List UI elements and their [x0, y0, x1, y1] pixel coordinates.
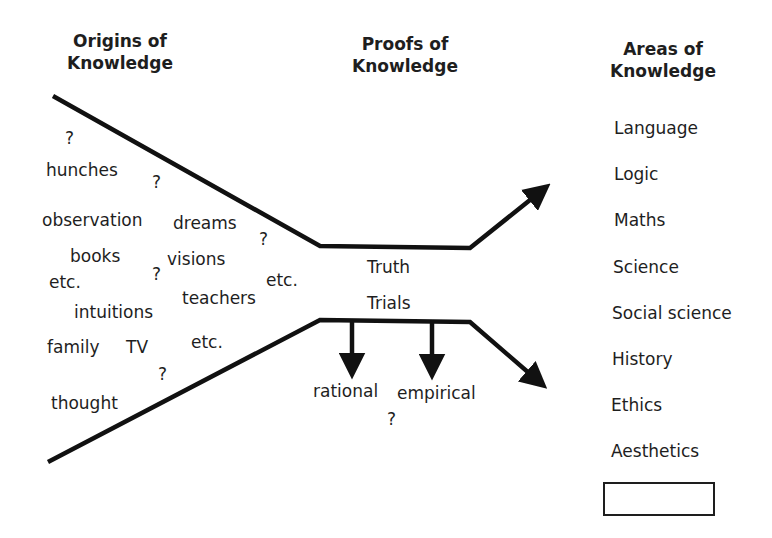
area-maths: Maths	[614, 212, 665, 229]
truth-label: Truth	[367, 259, 410, 276]
origin-item: thought	[51, 395, 118, 412]
proofs-header: Proofs of Knowledge	[325, 33, 485, 77]
areas-header: Areas of Knowledge	[593, 38, 733, 82]
origin-item: etc.	[266, 272, 298, 289]
origin-item: hunches	[46, 162, 118, 179]
area-aesthetics: Aesthetics	[611, 443, 699, 460]
origin-item: family	[47, 339, 99, 356]
origin-item: etc.	[191, 334, 223, 351]
origin-item: books	[70, 248, 120, 265]
area-ethics: Ethics	[611, 397, 662, 414]
origin-item: teachers	[182, 290, 256, 307]
origin-item: intuitions	[74, 304, 153, 321]
blank-area-box	[603, 482, 715, 516]
question-mark: ?	[259, 231, 268, 248]
origin-item: etc.	[49, 274, 81, 291]
area-science: Science	[613, 259, 679, 276]
question-mark: ?	[152, 174, 161, 191]
origins-header: Origins of Knowledge	[40, 30, 200, 74]
origins-header-line2: Knowledge	[40, 52, 200, 74]
trials-label: Trials	[367, 295, 411, 312]
areas-header-line2: Knowledge	[593, 60, 733, 82]
area-social-science: Social science	[612, 305, 732, 322]
origin-item: visions	[167, 251, 225, 268]
proofs-header-line1: Proofs of	[325, 33, 485, 55]
area-logic: Logic	[614, 166, 658, 183]
empirical-label: empirical	[397, 385, 476, 402]
question-mark: ?	[152, 266, 161, 283]
origin-item: TV	[126, 339, 148, 356]
question-mark: ?	[387, 411, 396, 428]
question-mark: ?	[158, 366, 167, 383]
proofs-header-line2: Knowledge	[325, 55, 485, 77]
rational-label: rational	[313, 383, 378, 400]
question-mark: ?	[65, 130, 74, 147]
origin-item: dreams	[173, 215, 237, 232]
area-language: Language	[614, 120, 698, 137]
areas-header-line1: Areas of	[593, 38, 733, 60]
area-history: History	[612, 351, 672, 368]
origins-header-line1: Origins of	[40, 30, 200, 52]
origin-item: observation	[42, 212, 143, 229]
